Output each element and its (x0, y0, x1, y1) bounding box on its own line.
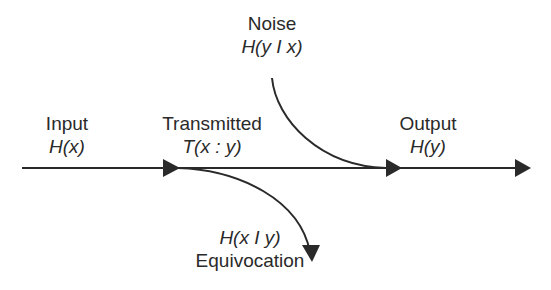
transmitted-title: Transmitted (162, 112, 262, 135)
input-formula: H(x) (46, 135, 88, 158)
transmitted-formula: T(x : y) (162, 135, 262, 158)
noise-title: Noise (241, 12, 302, 35)
noise-label: Noise H(y I x) (241, 12, 302, 58)
input-title: Input (46, 112, 88, 135)
equivocation-title: Equivocation (196, 249, 305, 272)
output-arrowhead (515, 159, 531, 177)
equivocation-formula: H(x I y) (196, 226, 305, 249)
noise-formula: H(y I x) (241, 35, 302, 58)
equivocation-arrowhead (302, 245, 320, 262)
output-formula: H(y) (399, 135, 456, 158)
output-title: Output (399, 112, 456, 135)
input-label: Input H(x) (46, 112, 88, 158)
merge-arrowhead (386, 159, 402, 177)
transmitted-arrowhead (163, 159, 180, 177)
noise-curve-arrow (272, 78, 386, 168)
equivocation-label: H(x I y) Equivocation (196, 226, 305, 272)
output-label: Output H(y) (399, 112, 456, 158)
transmitted-label: Transmitted T(x : y) (162, 112, 262, 158)
